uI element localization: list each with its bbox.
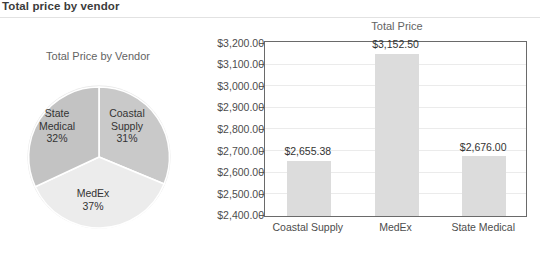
bar-chart-title: Total Price	[262, 20, 532, 32]
bar-chart-y-tick-label: $2,600.00	[204, 166, 264, 178]
bar-chart-bar[interactable]	[375, 54, 419, 217]
bar-chart-y-tick-label: $3,000.00	[204, 80, 264, 92]
pie-chart-graphic	[26, 84, 172, 230]
bar-chart-y-tick-label: $3,200.00	[204, 37, 264, 49]
bar-chart-y-tick-label: $2,500.00	[204, 188, 264, 200]
bar-chart-plot-area	[264, 41, 527, 217]
bar-chart-x-category-label: Coastal Supply	[258, 221, 358, 233]
bar-chart-panel: Total Price $3,200.00$3,100.00$3,000.00$…	[196, 19, 540, 259]
bar-chart-y-tick-label: $3,100.00	[204, 58, 264, 70]
bar-chart-bar[interactable]	[287, 161, 331, 216]
pie-svg	[26, 84, 172, 230]
bar-chart-y-axis: $3,200.00$3,100.00$3,000.00$2,900.00$2,8…	[196, 19, 264, 259]
bar-chart-x-category-label: State Medical	[433, 221, 533, 233]
bar-chart-y-tick-label: $2,400.00	[204, 209, 264, 221]
bar-chart-x-category-label: MedEx	[346, 221, 446, 233]
bar-chart-value-label: $2,676.00	[438, 141, 528, 153]
bar-chart-y-tick-label: $2,800.00	[204, 123, 264, 135]
bar-chart-value-label: $2,655.38	[263, 145, 353, 157]
pie-chart-title: Total Price by Vendor	[0, 50, 196, 62]
header-divider	[0, 17, 540, 18]
pie-chart-panel: Total Price by Vendor Coastal Supply 31%…	[0, 19, 196, 259]
bar-chart-value-label: $3,152.50	[351, 38, 441, 50]
bar-chart-y-tick-label: $2,900.00	[204, 101, 264, 113]
page-title: Total price by vendor	[2, 0, 120, 12]
bar-chart-y-tick-label: $2,700.00	[204, 145, 264, 157]
bar-chart-bar[interactable]	[462, 156, 506, 216]
